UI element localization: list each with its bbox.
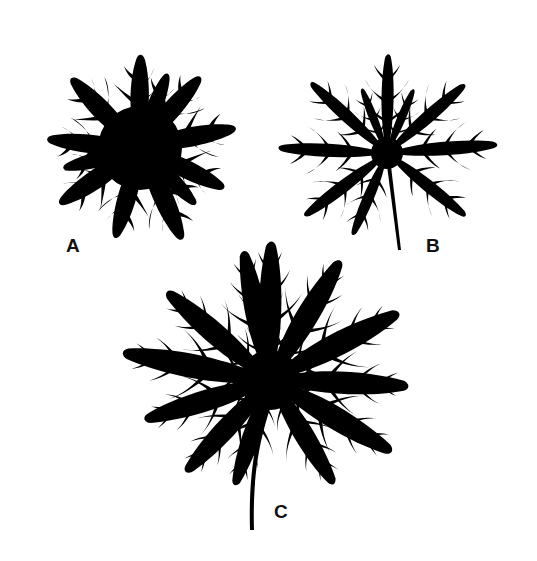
leaf-a-silhouette xyxy=(25,28,255,253)
leaf-comparison-figure: A B xyxy=(0,0,537,561)
leaf-c-silhouette xyxy=(105,230,435,535)
label-c: C xyxy=(274,502,288,521)
label-a: A xyxy=(66,236,80,255)
leaf-b-silhouette xyxy=(272,28,512,253)
